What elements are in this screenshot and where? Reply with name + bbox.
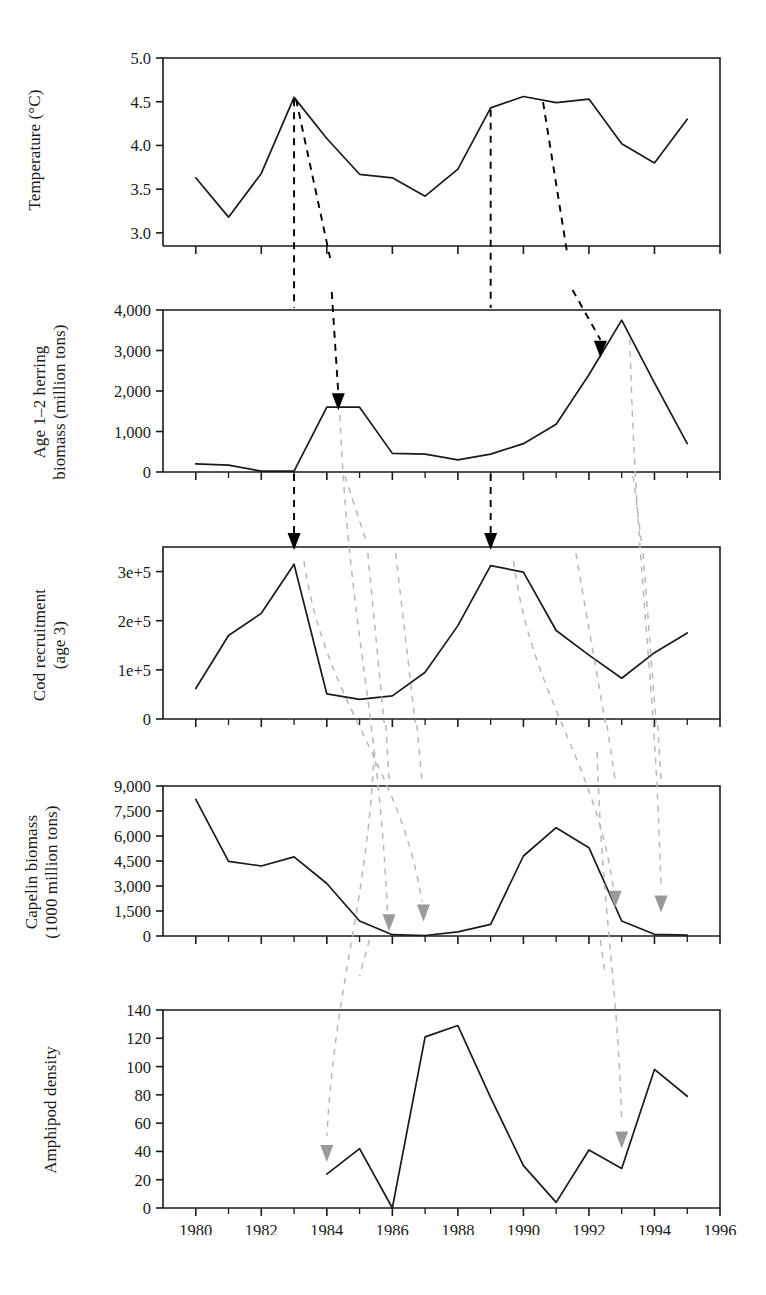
y-axis-tick-label: 40 [135, 1142, 152, 1161]
panel-temperature: Temperature (°C) 3.03.54.04.55.019801982… [0, 48, 766, 258]
data-series-line [196, 564, 687, 699]
y-axis-tick-label: 4,500 [114, 852, 151, 871]
y-axis-tick-label: 3,000 [114, 877, 151, 896]
data-series-line [327, 1026, 687, 1208]
plot-frame [163, 1010, 720, 1208]
x-axis-tick-label: 1994 [638, 1221, 671, 1235]
y-axis-tick-label: 1,500 [114, 902, 151, 921]
y-axis-tick-label: 4.0 [130, 136, 151, 155]
plot-frame [163, 786, 720, 936]
plot-frame [163, 547, 720, 719]
y-axis-tick-label: 2e+5 [118, 612, 151, 631]
panel-amphipod: Amphipod density 02040608010012014019801… [0, 1000, 766, 1235]
y-axis-tick-label: 140 [126, 1001, 151, 1020]
x-axis-tick-label: 1982 [245, 1221, 278, 1235]
data-series-line [196, 96, 687, 217]
panel-cod-plot: 01e+52e+53e+5 [0, 537, 766, 737]
panel-temperature-plot: 3.03.54.04.55.01980198219841986198819901… [0, 48, 766, 258]
x-axis-tick-label: 1980 [179, 1221, 212, 1235]
plot-frame [163, 310, 720, 472]
y-axis-tick-label: 4.5 [130, 93, 151, 112]
data-series-line [196, 320, 687, 471]
multi-panel-time-series-figure: Temperature (°C) 3.03.54.04.55.019801982… [0, 0, 766, 1295]
y-axis-tick-label: 0 [143, 463, 151, 482]
y-axis-tick-label: 0 [143, 927, 151, 946]
x-axis-tick-label: 1986 [376, 1221, 409, 1235]
y-axis-tick-label: 3.0 [130, 224, 151, 243]
y-axis-tick-label: 5.0 [130, 49, 151, 68]
x-axis-tick-label: 1984 [310, 1221, 343, 1235]
y-axis-tick-label: 120 [126, 1029, 151, 1048]
panel-cod: Cod recruitment (age 3) 01e+52e+53e+5 [0, 537, 766, 737]
panel-herring: Age 1–2 herring biomass (million tons) 0… [0, 300, 766, 492]
y-axis-tick-label: 4,000 [114, 301, 151, 320]
y-axis-tick-label: 60 [135, 1114, 152, 1133]
panel-capelin-plot: 01,5003,0004,5006,0007,5009,000 [0, 776, 766, 956]
panel-herring-plot: 01,0002,0003,0004,000 [0, 300, 766, 492]
y-axis-tick-label: 7,500 [114, 802, 151, 821]
y-axis-tick-label: 3,000 [114, 342, 151, 361]
y-axis-tick-label: 100 [126, 1058, 151, 1077]
y-axis-tick-label: 80 [135, 1086, 152, 1105]
y-axis-tick-label: 9,000 [114, 777, 151, 796]
y-axis-tick-label: 20 [135, 1171, 152, 1190]
y-axis-tick-label: 1e+5 [118, 661, 151, 680]
y-axis-tick-label: 2,000 [114, 382, 151, 401]
x-axis-tick-label: 1990 [507, 1221, 540, 1235]
y-axis-tick-label: 0 [143, 710, 151, 729]
data-series-line [196, 799, 687, 935]
y-axis-tick-label: 3e+5 [118, 563, 151, 582]
y-axis-tick-label: 0 [143, 1199, 151, 1218]
x-axis-tick-label: 1996 [704, 1221, 737, 1235]
panel-capelin: Capelin biomass (1000 million tons) 01,5… [0, 776, 766, 956]
x-axis-tick-label: 1988 [441, 1221, 474, 1235]
y-axis-tick-label: 1,000 [114, 423, 151, 442]
x-axis-tick-label: 1992 [572, 1221, 605, 1235]
y-axis-tick-label: 6,000 [114, 827, 151, 846]
y-axis-tick-label: 3.5 [130, 180, 151, 199]
panel-amphipod-plot: 0204060801001201401980198219841986198819… [0, 1000, 766, 1235]
